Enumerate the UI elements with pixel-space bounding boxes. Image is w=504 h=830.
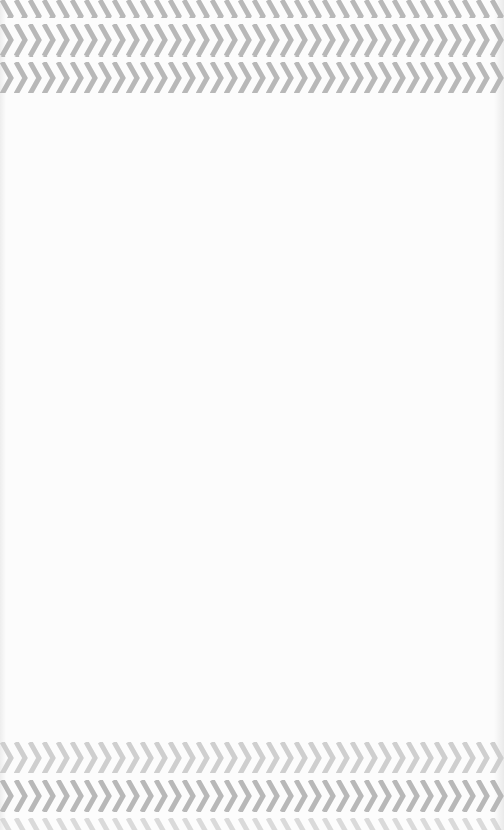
chevron-band-bottom-3 <box>0 818 504 830</box>
chevron-band-bottom-2 <box>0 780 504 812</box>
chevron-band-bottom-1 <box>0 742 504 773</box>
paper-background <box>0 0 504 830</box>
chevron-band-top-3 <box>0 62 504 93</box>
chevron-band-top-1 <box>0 0 504 18</box>
chevron-band-top-2 <box>0 24 504 57</box>
